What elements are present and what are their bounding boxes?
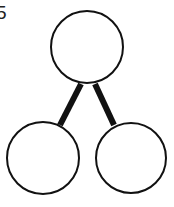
edge-left [60,84,81,125]
number-bond-diagram [0,0,174,207]
part-right-circle[interactable] [96,123,166,193]
part-left-circle[interactable] [7,122,79,194]
edge-right [95,84,114,125]
whole-circle[interactable] [51,11,123,83]
